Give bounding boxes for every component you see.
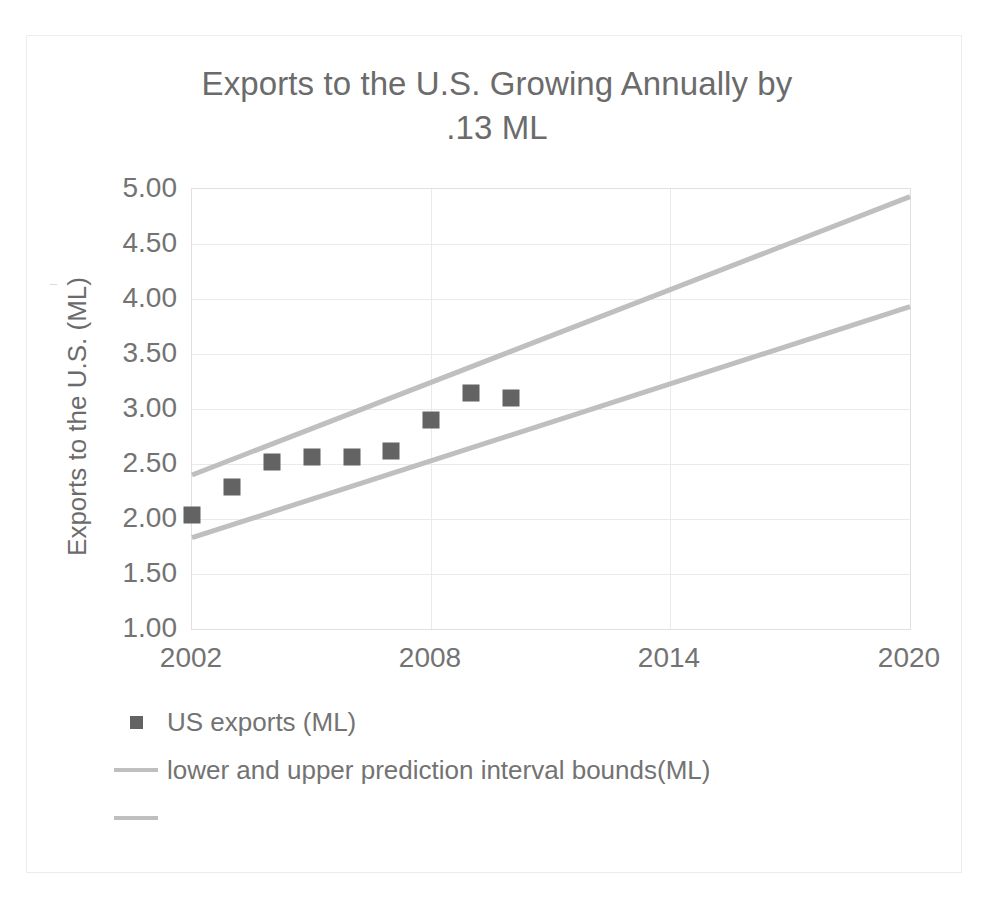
lower-bound-line: [192, 307, 910, 538]
plot-area: [191, 188, 911, 630]
data-point-marker: [184, 506, 201, 523]
data-point-marker: [383, 442, 400, 459]
y-tick-label: 1.50: [57, 559, 177, 587]
x-tick-label: 2008: [399, 644, 461, 672]
y-tick-label: 3.50: [57, 339, 177, 367]
y-tick-label: 3.00: [57, 394, 177, 422]
legend-swatch-line-icon: [105, 768, 167, 772]
y-tick-label: 2.50: [57, 449, 177, 477]
chart-title-line-2: .13 ML: [147, 106, 847, 150]
data-point-marker: [223, 479, 240, 496]
data-point-marker: [343, 449, 360, 466]
x-tick-label: 2014: [638, 644, 700, 672]
legend-item-prediction-bounds[interactable]: lower and upper prediction interval boun…: [105, 746, 905, 794]
legend-label: lower and upper prediction interval boun…: [167, 755, 710, 786]
x-tick-label: 2002: [160, 644, 222, 672]
legend-item-unlabeled[interactable]: [105, 794, 905, 842]
chart-title-line-1: Exports to the U.S. Growing Annually by: [147, 62, 847, 106]
y-tick-label: 4.50: [57, 229, 177, 257]
data-point-marker: [303, 449, 320, 466]
x-tick-label: 2020: [878, 644, 940, 672]
y-axis-tick-labels: 1.00 1.50 2.00 2.50 3.00 3.50 4.00 4.50 …: [57, 188, 177, 628]
legend-swatch-line-icon: [105, 816, 167, 820]
y-tick-mark: [50, 284, 57, 285]
legend-label: US exports (ML): [167, 707, 356, 738]
y-tick-label: 2.00: [57, 504, 177, 532]
data-point-marker: [423, 412, 440, 429]
prediction-interval-lines: [192, 189, 910, 629]
data-point-marker: [503, 390, 520, 407]
y-tick-label: 4.00: [57, 284, 177, 312]
chart-title: Exports to the U.S. Growing Annually by …: [147, 62, 847, 150]
chart-frame: Exports to the U.S. Growing Annually by …: [26, 35, 962, 873]
data-point-marker: [463, 384, 480, 401]
data-point-marker: [263, 453, 280, 470]
legend-swatch-square-icon: [105, 716, 167, 729]
legend-item-us-exports[interactable]: US exports (ML): [105, 698, 905, 746]
y-tick-label: 5.00: [57, 174, 177, 202]
upper-bound-line: [192, 197, 910, 475]
y-tick-label: 1.00: [57, 614, 177, 642]
chart-legend: US exports (ML) lower and upper predicti…: [105, 698, 905, 842]
x-axis-tick-labels: 2002 2008 2014 2020: [191, 644, 909, 684]
